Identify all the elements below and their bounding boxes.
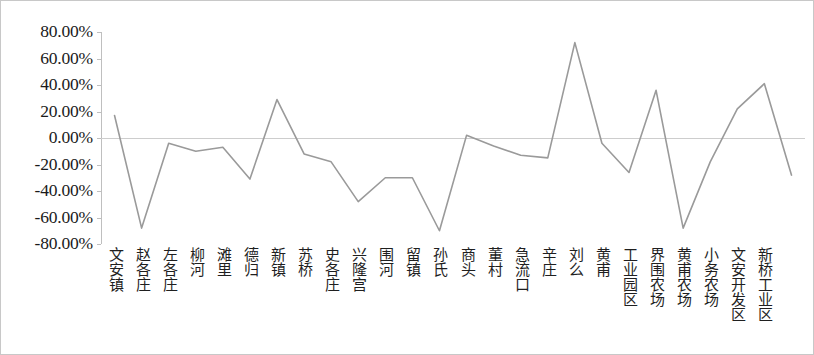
x-axis-tick-label: 小务农场 bbox=[703, 247, 718, 307]
x-axis-tick-label: 文安开发区 bbox=[730, 247, 745, 322]
chart-container: 80.00%60.00%40.00%20.00%0.00%-20.00%-40.… bbox=[0, 0, 814, 355]
x-axis-tick-label: 左各庄 bbox=[161, 247, 176, 292]
x-axis-tick-label: 赵各庄 bbox=[134, 247, 149, 292]
x-axis-tick-label: 滩里 bbox=[215, 247, 230, 277]
x-axis-tick-label: 刘么 bbox=[567, 247, 582, 277]
x-axis-tick-label: 德归 bbox=[242, 247, 257, 277]
y-axis-tick-label: -60.00% bbox=[1, 207, 93, 228]
x-axis-tick-label: 急流口 bbox=[513, 247, 528, 292]
x-axis-tick-label: 苏桥 bbox=[297, 247, 312, 277]
x-axis-tick-label: 黄甫农场 bbox=[676, 247, 691, 307]
y-axis-tick-mark bbox=[97, 244, 101, 245]
x-axis-tick-label: 商头 bbox=[459, 247, 474, 277]
y-axis-tick-label: 80.00% bbox=[1, 21, 93, 42]
x-axis-tick-labels: 文安镇赵各庄左各庄柳河滩里德归新镇苏桥史各庄兴隆宫围河留镇孙氏商头董村急流口辛庄… bbox=[101, 247, 805, 355]
series-polyline bbox=[115, 43, 792, 231]
x-axis-tick-label: 新桥工业区 bbox=[757, 247, 772, 322]
y-axis-tick-label: 0.00% bbox=[1, 127, 93, 148]
x-axis-tick-label: 孙氏 bbox=[432, 247, 447, 277]
x-axis-tick-label: 柳河 bbox=[188, 247, 203, 277]
y-axis-tick-label: 60.00% bbox=[1, 48, 93, 69]
line-series bbox=[101, 32, 805, 244]
x-axis-tick-label: 工业园区 bbox=[622, 247, 637, 307]
x-axis-tick-label: 董村 bbox=[486, 247, 501, 277]
x-axis-tick-label: 兴隆宫 bbox=[351, 247, 366, 292]
y-axis-tick-label: 20.00% bbox=[1, 101, 93, 122]
y-axis-tick-label: -80.00% bbox=[1, 233, 93, 254]
plot-area bbox=[101, 32, 805, 244]
x-axis-tick-label: 黄甫 bbox=[594, 247, 609, 277]
x-axis-tick-label: 围河 bbox=[378, 247, 393, 277]
x-axis-tick-label: 文安镇 bbox=[107, 247, 122, 292]
x-axis-tick-label: 新镇 bbox=[270, 247, 285, 277]
x-axis-tick-label: 史各庄 bbox=[324, 247, 339, 292]
y-axis-tick-label: -20.00% bbox=[1, 154, 93, 175]
y-axis-tick-label: 40.00% bbox=[1, 74, 93, 95]
y-axis-tick-label: -40.00% bbox=[1, 180, 93, 201]
x-axis-tick-label: 界围农场 bbox=[649, 247, 664, 307]
x-axis-tick-label: 留镇 bbox=[405, 247, 420, 277]
x-axis-tick-label: 辛庄 bbox=[540, 247, 555, 277]
